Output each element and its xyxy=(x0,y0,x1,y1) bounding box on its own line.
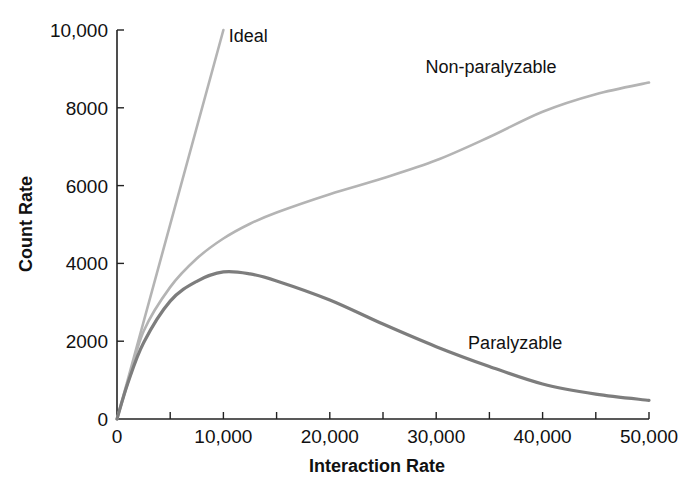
curves xyxy=(117,30,649,419)
non-paralyzable-curve xyxy=(117,83,649,419)
x-tick-label: 20,000 xyxy=(301,426,359,447)
x-tick-label: 30,000 xyxy=(407,426,465,447)
paralyzable-label: Paralyzable xyxy=(468,333,562,353)
paralyzable-curve xyxy=(117,272,649,419)
y-tick-label: 0 xyxy=(97,409,108,430)
x-tick-label: 0 xyxy=(112,426,123,447)
x-tick-label: 40,000 xyxy=(514,426,572,447)
y-tick-label: 6000 xyxy=(66,176,108,197)
chart: 0200040006000800010,000010,00020,00030,0… xyxy=(0,0,690,482)
non-paralyzable-label: Non-paralyzable xyxy=(426,57,557,77)
x-tick-label: 50,000 xyxy=(620,426,678,447)
labels: IdealNon-paralyzableParalyzable xyxy=(229,26,562,353)
x-tick-label: 10,000 xyxy=(194,426,252,447)
y-tick-label: 10,000 xyxy=(50,20,108,41)
ideal-label: Ideal xyxy=(229,26,268,46)
x-axis-title: Interaction Rate xyxy=(309,456,445,476)
y-axis-title: Count Rate xyxy=(16,176,36,272)
y-tick-label: 8000 xyxy=(66,98,108,119)
y-tick-label: 2000 xyxy=(66,331,108,352)
y-tick-label: 4000 xyxy=(66,253,108,274)
axes: 0200040006000800010,000010,00020,00030,0… xyxy=(16,20,678,476)
